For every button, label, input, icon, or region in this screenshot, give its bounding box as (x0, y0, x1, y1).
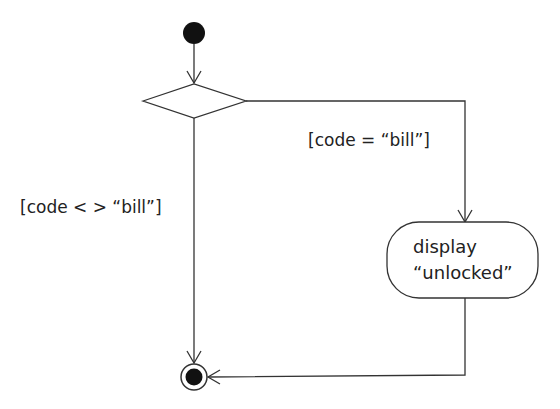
action-label-line1: display (413, 234, 513, 260)
edge-decision-to-action (246, 101, 472, 222)
guard-equal-label: [code = “bill”] (308, 130, 430, 150)
edge-action-to-final (208, 298, 465, 384)
edge-decision-to-final (187, 118, 201, 363)
decision-node (143, 84, 246, 118)
edge-initial-to-decision (187, 44, 201, 83)
guard-not-equal-label: [code < > “bill”] (20, 197, 162, 217)
action-label: display “unlocked” (413, 234, 513, 286)
action-label-line2: “unlocked” (413, 260, 513, 286)
activity-final-node (181, 364, 207, 390)
initial-node (183, 22, 205, 44)
